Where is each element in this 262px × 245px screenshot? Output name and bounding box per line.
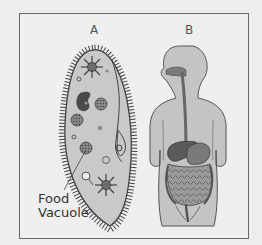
contractile-vacuole-bottom [95, 174, 117, 196]
intestines [167, 164, 213, 205]
contractile-vacuole-top [81, 56, 103, 78]
small-vacuole [105, 69, 108, 72]
callout-line-2: Vacuole [38, 206, 89, 220]
callout-line-1: Food [38, 192, 89, 206]
human-torso [150, 46, 226, 226]
micronucleus [85, 102, 88, 105]
food-vacuole [80, 142, 92, 154]
callout-food-vacuole: Food Vacuole [38, 192, 89, 220]
food-vacuole-target [82, 172, 90, 180]
food-vacuole [71, 114, 83, 126]
food-vacuole [95, 98, 107, 110]
